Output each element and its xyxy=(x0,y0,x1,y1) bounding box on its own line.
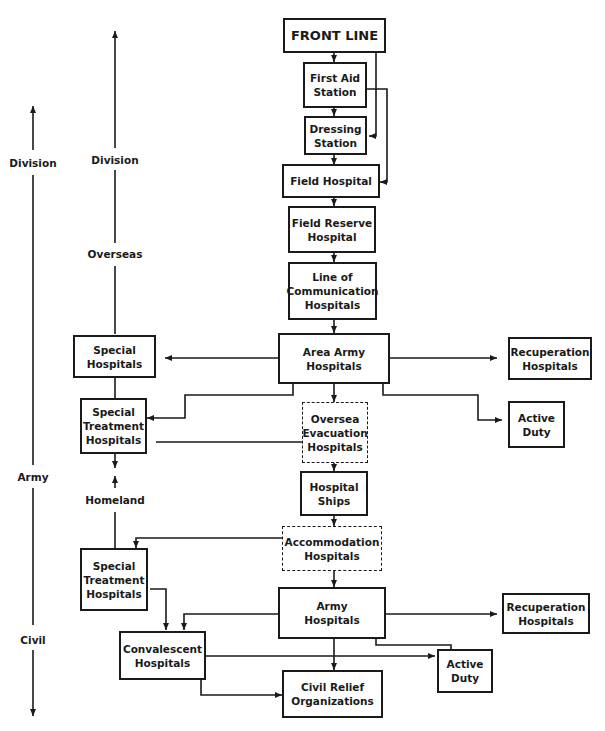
node-accommodation-hospitals: Accommodation Hospitals xyxy=(282,526,382,571)
node-army-hospitals: Army Hospitals xyxy=(278,587,386,639)
node-oversea-evacuation-hospitals: Oversea Evacuation Hospitals xyxy=(302,402,368,463)
node-first-aid-station: First Aid Station xyxy=(303,62,367,108)
node-recuperation-hospitals-overseas: Recuperation Hospitals xyxy=(508,337,592,380)
node-dressing-station: Dressing Station xyxy=(304,116,367,155)
node-line-of-communication-hospitals: Line of Communication Hospitals xyxy=(288,262,377,320)
node-active-duty-overseas: Active Duty xyxy=(508,401,565,448)
inner-label-division: Division xyxy=(89,153,140,167)
node-civil-relief-organizations: Civil Relief Organizations xyxy=(282,670,383,718)
node-special-hospitals: Special Hospitals xyxy=(73,335,156,378)
node-active-duty-homeland: Active Duty xyxy=(437,649,493,693)
node-recuperation-hospitals-homeland: Recuperation Hospitals xyxy=(502,593,590,634)
node-field-reserve-hospital: Field Reserve Hospital xyxy=(288,206,376,253)
node-convalescent-hospitals: Convalescent Hospitals xyxy=(119,631,206,680)
node-special-treatment-hospitals-overseas: Special Treatment Hospitals xyxy=(80,398,147,454)
outer-label-division: Division xyxy=(7,156,58,170)
outer-label-army: Army xyxy=(15,470,50,484)
inner-label-homeland: Homeland xyxy=(83,493,147,507)
node-front-line: FRONT LINE xyxy=(283,18,386,53)
outer-label-civil: Civil xyxy=(18,633,47,647)
inner-label-overseas: Overseas xyxy=(86,247,145,261)
node-area-army-hospitals: Area Army Hospitals xyxy=(278,333,390,384)
node-hospital-ships: Hospital Ships xyxy=(300,471,368,516)
node-special-treatment-hospitals-homeland: Special Treatment Hospitals xyxy=(80,548,148,611)
node-field-hospital: Field Hospital xyxy=(282,164,380,198)
